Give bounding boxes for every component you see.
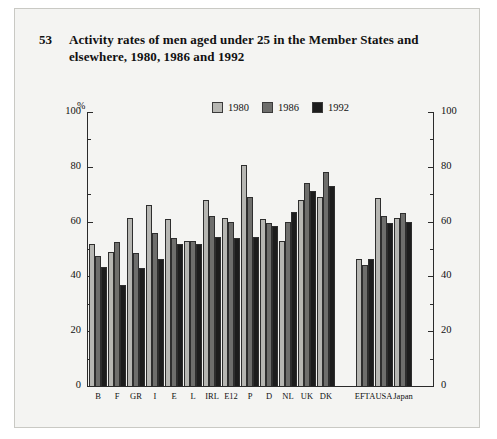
bar-L-1992[interactable] [196, 244, 202, 386]
bar-group-DK [317, 112, 335, 386]
y-tick-left-0 [88, 386, 93, 387]
page-title: Activity rates of men aged under 25 in t… [69, 31, 449, 65]
y-tick-label-right-60: 60 [441, 215, 477, 226]
y-tick-label-right-40: 40 [441, 269, 477, 280]
x-axis [87, 386, 434, 387]
bar-group-EFTA [356, 112, 374, 386]
bar-GR-1992[interactable] [139, 268, 145, 386]
y-tick-label-left-60: 60 [45, 215, 81, 226]
bar-group-B [89, 112, 107, 386]
x-tick-label-Japan: Japan [387, 391, 419, 401]
bar-group-USA [375, 112, 393, 386]
figure-panel: 53 Activity rates of men aged under 25 i… [14, 8, 480, 428]
bar-DK-1992[interactable] [329, 186, 335, 386]
bar-group-I [146, 112, 164, 386]
bar-B-1992[interactable] [101, 267, 107, 386]
bar-USA-1992[interactable] [387, 223, 393, 386]
y-tick-label-left-40: 40 [45, 269, 81, 280]
bar-I-1992[interactable] [158, 259, 164, 386]
bar-group-Japan [394, 112, 412, 386]
y-tick-label-right-100: 100 [441, 105, 477, 116]
x-tick-label-DK: DK [310, 391, 342, 401]
bar-NL-1992[interactable] [291, 212, 297, 386]
bar-UK-1992[interactable] [310, 191, 316, 386]
figure-title-row: 53 Activity rates of men aged under 25 i… [39, 31, 449, 65]
y-tick-label-left-20: 20 [45, 324, 81, 335]
bar-group-L [184, 112, 202, 386]
bar-F-1992[interactable] [120, 285, 126, 386]
bar-group-E12 [222, 112, 240, 386]
bar-group-UK [298, 112, 316, 386]
bar-group-D [260, 112, 278, 386]
y-tick-label-right-20: 20 [441, 324, 477, 335]
y-tick-label-left-100: 100 [45, 105, 81, 116]
figure-number: 53 [39, 31, 69, 48]
bar-group-E [165, 112, 183, 386]
bar-group-P [241, 112, 259, 386]
bar-group-IRL [203, 112, 221, 386]
bar-group-GR [127, 112, 145, 386]
y-tick-label-left-0: 0 [45, 379, 81, 390]
bar-D-1992[interactable] [272, 226, 278, 386]
y-tick-label-right-80: 80 [441, 160, 477, 171]
y-axis-right [433, 112, 434, 387]
bar-EFTA-1992[interactable] [368, 259, 374, 386]
bar-IRL-1992[interactable] [215, 237, 221, 386]
bar-E12-1992[interactable] [234, 238, 240, 386]
bar-P-1992[interactable] [253, 237, 259, 386]
y-tick-right-0 [428, 386, 433, 387]
bar-Japan-1992[interactable] [406, 222, 412, 386]
plot-area [87, 112, 433, 386]
bar-group-NL [279, 112, 297, 386]
bar-group-F [108, 112, 126, 386]
y-tick-label-left-80: 80 [45, 160, 81, 171]
y-tick-label-right-0: 0 [441, 379, 477, 390]
bar-E-1992[interactable] [177, 244, 183, 386]
